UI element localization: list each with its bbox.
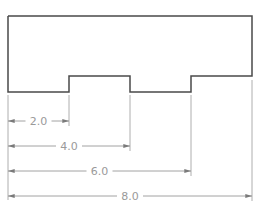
dimension-6.0: 6.0 (8, 165, 191, 178)
technical-drawing: 2.04.06.08.0 (0, 0, 261, 210)
extension-lines (8, 80, 252, 201)
dimension-2.0: 2.0 (8, 115, 69, 128)
dimension-label: 4.0 (60, 140, 78, 153)
dimension-label: 8.0 (121, 190, 139, 203)
dimension-8.0: 8.0 (8, 190, 252, 203)
dimension-label: 6.0 (91, 165, 109, 178)
part-outline (8, 16, 252, 92)
dimension-4.0: 4.0 (8, 140, 130, 153)
dimension-label: 2.0 (30, 115, 48, 128)
